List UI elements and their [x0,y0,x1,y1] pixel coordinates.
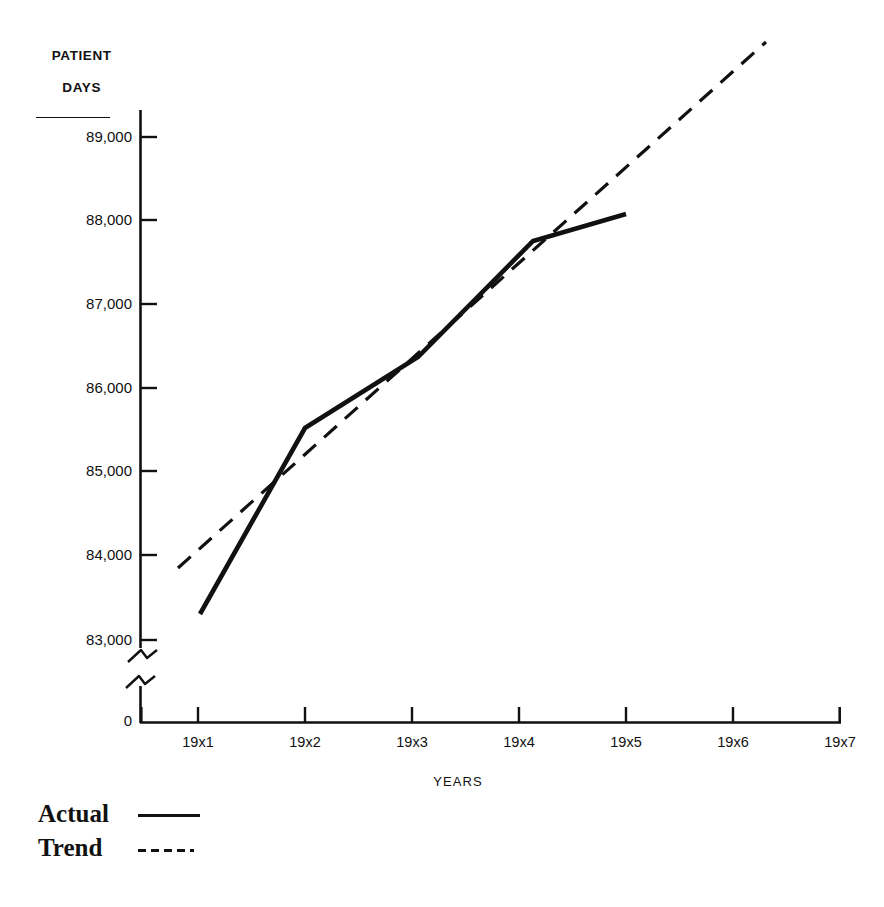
series-actual-line [200,214,626,614]
x-tick-label-19x2: 19x2 [260,734,350,750]
legend-label-trend: Trend [38,834,134,862]
chart-legend: Actual Trend [38,800,368,868]
y-tick-label-89000: 89,000 [22,128,132,145]
legend-item-trend: Trend [38,834,368,868]
legend-swatch-solid-icon [138,808,200,822]
y-tick-label-88000: 88,000 [22,211,132,228]
y-tick-label-84000: 84,000 [22,546,132,563]
legend-label-actual: Actual [38,800,134,828]
y-axis-ticks [140,137,157,640]
x-tick-label-19x4: 19x4 [474,734,564,750]
x-axis-ticks [198,707,733,722]
x-axis-title: YEARS [398,774,518,789]
x-tick-label-19x7: 19x7 [795,734,884,750]
y-tick-label-zero: 0 [22,712,132,729]
y-tick-label-83000: 83,000 [22,631,132,648]
legend-swatch-dashed-icon [138,842,200,856]
plot-canvas [0,0,884,907]
x-tick-label-19x3: 19x3 [367,734,457,750]
legend-item-actual: Actual [38,800,368,834]
y-tick-label-87000: 87,000 [22,295,132,312]
x-tick-label-19x1: 19x1 [153,734,243,750]
y-tick-label-86000: 86,000 [22,379,132,396]
y-axis-break-upper-mark [128,650,157,662]
x-tick-label-19x5: 19x5 [581,734,671,750]
x-tick-label-19x6: 19x6 [688,734,778,750]
y-tick-label-85000: 85,000 [22,462,132,479]
chart-root: PATIENT DAYS [0,0,884,907]
